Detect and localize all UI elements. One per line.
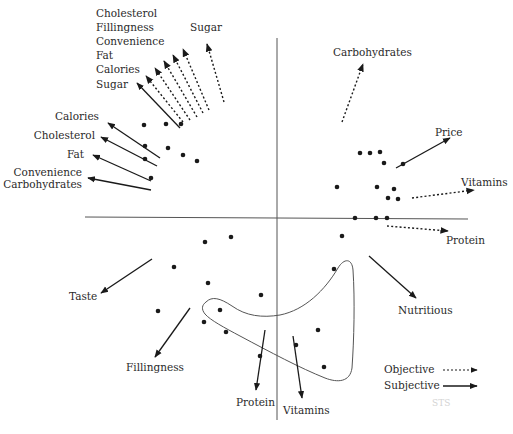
data-point bbox=[195, 159, 200, 164]
data-point bbox=[340, 234, 345, 239]
legend: Objective Subjective STS bbox=[384, 363, 477, 408]
data-point bbox=[368, 151, 373, 156]
label-calories-objective: Calories bbox=[96, 63, 140, 75]
data-point bbox=[164, 122, 169, 127]
data-points bbox=[142, 122, 406, 370]
label-fillingness-subjective: Fillingness bbox=[126, 361, 184, 373]
data-point bbox=[142, 123, 147, 128]
label-vitamins-subjective: Vitamins bbox=[282, 404, 330, 416]
data-point bbox=[401, 162, 406, 167]
data-point bbox=[206, 281, 211, 286]
data-point bbox=[386, 196, 391, 201]
data-point bbox=[316, 328, 321, 333]
subjective-vector-sugar bbox=[137, 83, 180, 128]
data-point bbox=[382, 161, 387, 166]
subjective-vector-fillingness bbox=[155, 308, 190, 357]
label-protein-objective: Protein bbox=[446, 234, 485, 246]
label-vitamins-objective: Vitamins bbox=[460, 176, 508, 188]
objective-vector-vitamins bbox=[412, 190, 474, 198]
objective-vectors bbox=[146, 44, 474, 231]
legend-subjective-label: Subjective bbox=[384, 379, 440, 391]
label-nutritious: Nutritious bbox=[398, 304, 453, 316]
data-point bbox=[143, 157, 148, 162]
data-point bbox=[294, 343, 299, 348]
data-point bbox=[375, 185, 380, 190]
data-point bbox=[218, 308, 223, 313]
objective-vector-sugar bbox=[207, 44, 224, 102]
label-convenience-subjective: Convenience bbox=[14, 166, 82, 178]
legend-objective-label: Objective bbox=[384, 363, 434, 375]
data-point bbox=[229, 235, 234, 240]
data-point bbox=[392, 187, 397, 192]
data-point bbox=[143, 144, 148, 149]
subjective-vector-taste bbox=[101, 259, 152, 293]
cluster-outline bbox=[202, 261, 354, 381]
subjective-vector-calories bbox=[108, 123, 160, 158]
subjective-vector-protein bbox=[256, 330, 265, 390]
label-cholesterol-objective: Cholesterol bbox=[96, 7, 158, 19]
data-point bbox=[358, 151, 363, 156]
data-point bbox=[332, 267, 337, 272]
perceptual-map-diagram: Cholesterol Fillingness Convenience Fat … bbox=[0, 0, 513, 434]
label-sugar-subjective: Sugar bbox=[96, 78, 129, 90]
label-carbohydrates-objective: Carbohydrates bbox=[333, 46, 412, 58]
data-point bbox=[149, 176, 154, 181]
label-fat-objective: Fat bbox=[96, 49, 114, 61]
data-point bbox=[166, 146, 171, 151]
label-protein-subjective: Protein bbox=[236, 396, 275, 408]
data-point bbox=[179, 122, 184, 127]
subjective-vector-nutritious bbox=[369, 256, 416, 298]
subjective-vector-convenience-carbohydrates bbox=[88, 178, 151, 190]
label-stack-top-left: Cholesterol Fillingness Convenience Fat … bbox=[96, 7, 164, 90]
label-convenience-objective: Convenience bbox=[96, 35, 164, 47]
data-point bbox=[224, 330, 229, 335]
label-price: Price bbox=[435, 126, 463, 138]
data-point bbox=[172, 265, 177, 270]
label-cholesterol-subjective: Cholesterol bbox=[34, 129, 96, 141]
data-point bbox=[156, 309, 161, 314]
data-point bbox=[385, 216, 390, 221]
data-point bbox=[203, 240, 208, 245]
data-point bbox=[259, 293, 264, 298]
data-point bbox=[322, 365, 327, 370]
data-point bbox=[202, 320, 207, 325]
watermark: STS bbox=[432, 398, 450, 408]
data-point bbox=[258, 354, 263, 359]
label-carbohydrates-subjective: Carbohydrates bbox=[3, 178, 82, 190]
objective-vector-carbohydrates bbox=[342, 64, 363, 122]
objective-vector-protein bbox=[387, 226, 448, 231]
label-fillingness-objective: Fillingness bbox=[96, 21, 154, 33]
label-fat-subjective: Fat bbox=[67, 148, 85, 160]
data-point bbox=[181, 153, 186, 158]
data-point bbox=[335, 185, 340, 190]
data-point bbox=[353, 216, 358, 221]
label-taste: Taste bbox=[69, 290, 97, 302]
data-point bbox=[378, 150, 383, 155]
label-sugar-objective: Sugar bbox=[190, 21, 223, 33]
data-point bbox=[396, 197, 401, 202]
label-calories-subjective: Calories bbox=[55, 110, 99, 122]
data-point bbox=[374, 216, 379, 221]
biplot-canvas: Cholesterol Fillingness Convenience Fat … bbox=[0, 0, 513, 434]
